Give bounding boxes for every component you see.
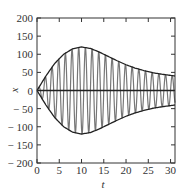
y-tick-label: 100 — [17, 48, 34, 60]
x-axis-label: t — [101, 178, 105, 190]
y-tick-label: 200 — [17, 12, 34, 24]
x-tick-label: 25 — [143, 164, 155, 176]
y-tick-label: 0 — [28, 85, 34, 97]
y-tick-label: 50 — [22, 66, 34, 78]
y-tick-label: − 100 — [8, 121, 34, 133]
y-axis-label: x — [8, 87, 20, 93]
y-tick-label: − 150 — [8, 139, 34, 151]
x-tick-label: 20 — [121, 164, 133, 176]
y-tick-label: 150 — [17, 30, 34, 42]
y-tick-label: − 200 — [8, 157, 34, 169]
y-tick-label: − 50 — [13, 103, 33, 115]
chart: 200150100500− 50− 100− 150− 200 05101520… — [0, 0, 182, 192]
plot-series — [37, 47, 175, 134]
x-tick-label: 30 — [165, 164, 177, 176]
x-tick-label: 10 — [76, 164, 88, 176]
x-ticks: 051015202530 — [34, 18, 176, 176]
x-tick-label: 5 — [57, 164, 63, 176]
x-tick-label: 0 — [34, 164, 40, 176]
x-tick-label: 15 — [98, 164, 110, 176]
